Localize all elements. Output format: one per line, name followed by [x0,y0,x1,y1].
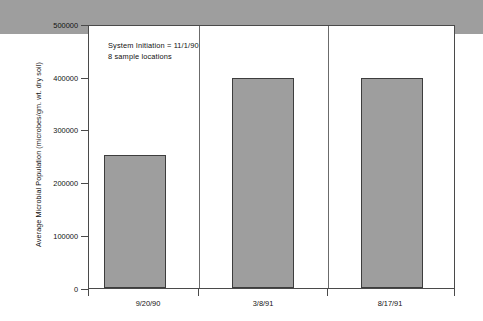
x-tick-mark-1 [198,289,199,296]
plot-inner [89,26,454,288]
bar-1 [232,78,294,288]
y-tick-label-0: 0 [0,285,78,294]
annotation-line-1: System Initiation = 11/1/90 [108,40,199,51]
y-tick-label-2: 200000 [0,179,78,188]
y-tick-label-5: 500000 [0,21,78,30]
y-tick-mark-5 [81,25,88,26]
plot-area [88,25,455,289]
x-tick-label-0: 9/20/90 [113,299,183,308]
y-tick-label-3: 300000 [0,126,78,135]
bar-0 [104,155,166,288]
x-tick-mark-right [454,289,455,296]
y-tick-mark-2 [81,183,88,184]
x-tick-label-1: 3/8/91 [228,299,298,308]
y-axis-title: Average Microbial Population (microbes/g… [34,20,43,290]
x-tick-mark-2 [327,289,328,296]
group-divider-1 [199,26,200,288]
y-tick-mark-1 [81,236,88,237]
x-tick-label-2: 8/17/91 [355,299,425,308]
y-tick-mark-3 [81,130,88,131]
bar-chart: Average Microbial Population (microbes/g… [0,0,483,34]
y-tick-mark-4 [81,78,88,79]
annotation-line-2: 8 sample locations [108,51,199,62]
bar-2 [361,78,423,288]
x-tick-mark-left [88,289,89,296]
y-tick-mark-0 [81,289,88,290]
group-divider-2 [328,26,329,288]
chart-annotation: System Initiation = 11/1/90 8 sample loc… [108,40,199,62]
y-tick-label-4: 400000 [0,74,78,83]
y-tick-label-1: 100000 [0,232,78,241]
